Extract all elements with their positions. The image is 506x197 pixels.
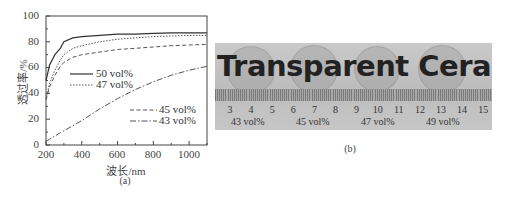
ruler-number: 5 [264, 104, 280, 115]
ruler-number: 6 [285, 104, 301, 115]
legend-label-47: 47 vol% [96, 78, 133, 90]
x-tick-label: 600 [97, 148, 137, 160]
sample-label: 49 vol% [426, 116, 460, 127]
y-axis-title: 透过率/% [14, 52, 30, 112]
ruler-number: 3 [222, 104, 238, 115]
ruler-number: 4 [243, 104, 259, 115]
ruler-number: 13 [433, 104, 449, 115]
ruler-number: 7 [306, 104, 322, 115]
x-tick-label: 400 [62, 148, 102, 160]
y-tick-label: 100 [17, 9, 39, 21]
x-tick-label: 200 [26, 148, 66, 160]
ruler-number: 12 [412, 104, 428, 115]
ruler-number: 14 [454, 104, 470, 115]
transmittance-chart: 0 20 40 60 80 100 200 400 600 800 1000 透… [0, 0, 215, 197]
ruler-number: 11 [391, 104, 407, 115]
legend-label-43: 43 vol% [159, 114, 196, 126]
ruler-number: 9 [349, 104, 365, 115]
sample-label: 45 vol% [296, 116, 330, 127]
sample-label: 47 vol% [361, 116, 395, 127]
x-tick-label: 1000 [169, 148, 209, 160]
sample-label: 43 vol% [231, 116, 265, 127]
ceramics-photo: Transparent Ceramics 3456789101112131415… [215, 43, 492, 130]
y-tick-label: 20 [17, 112, 39, 124]
x-tick-label: 800 [133, 148, 173, 160]
ruler-number: 15 [475, 104, 491, 115]
ruler-number: 8 [328, 104, 344, 115]
ruler-number: 10 [370, 104, 386, 115]
banner-text: Transparent Ceramics [217, 49, 492, 83]
panel-b-caption: (b) [340, 143, 360, 154]
panel-a-caption: (a) [115, 175, 135, 186]
ruler [215, 89, 492, 101]
y-tick-label: 80 [17, 35, 39, 47]
